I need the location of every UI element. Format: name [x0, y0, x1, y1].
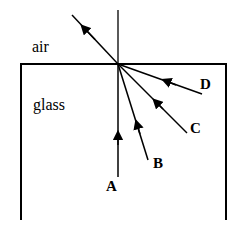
- ray-d-label: D: [200, 76, 211, 93]
- glass-label: glass: [33, 96, 65, 114]
- air-label: air: [32, 38, 49, 56]
- ray-d: [118, 64, 202, 94]
- ray-b-label: B: [153, 155, 163, 172]
- emergent-ray: [72, 15, 118, 64]
- refraction-diagram: air glass A B C D: [0, 0, 237, 232]
- diagram-graphics: [0, 0, 237, 232]
- ray-a-label: A: [106, 178, 117, 195]
- glass-block-outline: [20, 64, 227, 220]
- ray-c-label: C: [190, 120, 201, 137]
